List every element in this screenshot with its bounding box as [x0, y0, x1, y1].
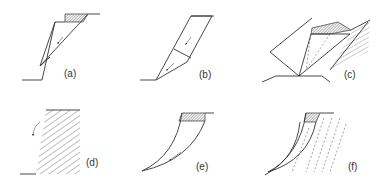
label-a: (a) — [64, 68, 76, 79]
label-f: (f) — [348, 161, 357, 172]
label-e: (e) — [196, 161, 208, 172]
panel-e: (e) — [142, 113, 214, 172]
panel-d: (d) — [20, 110, 98, 174]
slope-failure-diagram: (a) (b) (c) (d) — [0, 0, 380, 186]
panel-c: (c) — [262, 18, 370, 82]
label-c: (c) — [344, 69, 356, 80]
label-b: (b) — [199, 69, 211, 80]
label-d: (d) — [86, 157, 98, 168]
panel-b: (b) — [140, 16, 214, 80]
panel-f: (f) — [265, 113, 357, 175]
panel-a: (a) — [22, 14, 100, 80]
